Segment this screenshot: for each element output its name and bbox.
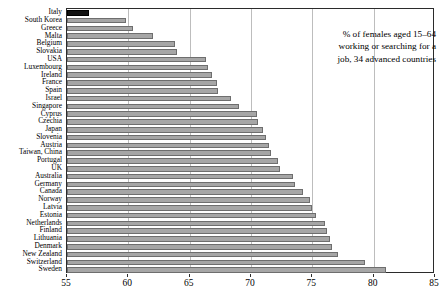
bar-row: [67, 111, 433, 117]
bar-row: [67, 252, 433, 258]
bar-row: [67, 213, 433, 219]
bar-row: [67, 119, 433, 125]
bar-denmark: [67, 244, 332, 250]
bar-usa: [67, 57, 206, 63]
bar-row: [67, 158, 433, 164]
bar-row: [67, 267, 433, 273]
bar-row: [67, 143, 433, 149]
bar-belgium: [67, 41, 175, 47]
bar-row: [67, 205, 433, 211]
tick-label-55: 55: [61, 278, 71, 289]
chart-annotation: % of females aged 15–64 working or searc…: [292, 28, 436, 65]
bar-france: [67, 80, 217, 86]
tick-label-65: 65: [184, 278, 194, 289]
category-label-sweden: Sweden: [39, 265, 62, 272]
bar-singapore: [67, 104, 239, 110]
bar-switzerland: [67, 260, 365, 266]
bar-cyprus: [67, 111, 257, 117]
bar-portugal: [67, 158, 278, 164]
bar-row: [67, 221, 433, 227]
tick-mark: [189, 274, 190, 277]
bar-row: [67, 18, 433, 24]
bar-finland: [67, 228, 327, 234]
bar-spain: [67, 88, 218, 94]
bar-netherlands: [67, 221, 325, 227]
bar-row: [67, 174, 433, 180]
bar-malta: [67, 33, 153, 39]
bar-south-korea: [67, 18, 126, 24]
bar-slovakia: [67, 49, 177, 55]
bar-japan: [67, 127, 263, 133]
bar-row: [67, 80, 433, 86]
bar-australia: [67, 174, 293, 180]
bar-row: [67, 228, 433, 234]
bar-greece: [67, 26, 133, 32]
bar-taiwan-china: [67, 150, 271, 156]
tick-label-85: 85: [429, 278, 439, 289]
tick-label-60: 60: [123, 278, 133, 289]
bar-row: [67, 88, 433, 94]
bar-row: [67, 127, 433, 133]
bar-row: [67, 197, 433, 203]
bar-latvia: [67, 205, 312, 211]
annotation-line-1: % of females aged 15–64: [292, 28, 436, 40]
bar-germany: [67, 182, 295, 188]
value-axis: 55606570758085: [66, 274, 434, 294]
tick-mark: [127, 274, 128, 277]
bar-row: [67, 10, 433, 16]
tick-label-80: 80: [368, 278, 378, 289]
bar-row: [67, 189, 433, 195]
bar-slovenia: [67, 135, 266, 141]
bar-italy: [67, 10, 89, 16]
bar-row: [67, 244, 433, 250]
bar-row: [67, 260, 433, 266]
tick-mark: [66, 274, 67, 277]
bar-row: [67, 236, 433, 242]
tick-mark: [373, 274, 374, 277]
bar-row: [67, 72, 433, 78]
bar-row: [67, 104, 433, 110]
bar-uk: [67, 166, 280, 172]
bar-sweden: [67, 267, 386, 273]
bar-row: [67, 65, 433, 71]
bar-new-zealand: [67, 252, 338, 258]
tick-mark: [250, 274, 251, 277]
bar-row: [67, 150, 433, 156]
bar-luxembourg: [67, 65, 208, 71]
bar-row: [67, 166, 433, 172]
tick-label-70: 70: [245, 278, 255, 289]
tick-mark: [434, 274, 435, 277]
category-label-singapore: Singapore: [32, 102, 62, 109]
category-axis-labels: ItalySouth KoreaGreeceMaltaBelgiumSlovak…: [0, 8, 64, 273]
bar-estonia: [67, 213, 316, 219]
bar-row: [67, 182, 433, 188]
bar-israel: [67, 96, 231, 102]
bar-row: [67, 96, 433, 102]
bar-austria: [67, 143, 269, 149]
bar-ireland: [67, 72, 212, 78]
bar-czechia: [67, 119, 258, 125]
bar-canada: [67, 189, 303, 195]
tick-mark: [311, 274, 312, 277]
annotation-line-3: job, 34 advanced countries: [292, 53, 436, 65]
bar-lithuania: [67, 236, 330, 242]
bar-row: [67, 135, 433, 141]
annotation-line-2: working or searching for a: [292, 40, 436, 52]
female-labour-force-participation-chart: ItalySouth KoreaGreeceMaltaBelgiumSlovak…: [0, 0, 447, 307]
bar-norway: [67, 197, 310, 203]
tick-label-75: 75: [307, 278, 317, 289]
